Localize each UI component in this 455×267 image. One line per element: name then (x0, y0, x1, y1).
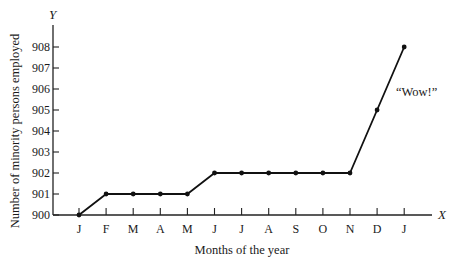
y-tick-label: 902 (32, 166, 50, 180)
y-tick-label: 900 (32, 208, 50, 222)
data-point (158, 192, 163, 197)
x-tick-label: S (292, 222, 299, 236)
data-point (104, 192, 109, 197)
x-tick-label: O (319, 222, 328, 236)
data-line (79, 47, 404, 215)
y-tick-label: 907 (32, 61, 50, 75)
x-tick-label: F (103, 222, 110, 236)
y-tick-label: 908 (32, 40, 50, 54)
x-tick-label: M (128, 222, 139, 236)
x-tick-label: J (239, 222, 244, 236)
data-point (212, 171, 217, 176)
y-axis: 900901902903904905906907908 (32, 25, 59, 222)
x-tick-label: D (373, 222, 382, 236)
data-point (321, 171, 326, 176)
data-point (239, 171, 244, 176)
data-point (293, 171, 298, 176)
line-chart: 900901902903904905906907908 JFMAMJJASOND… (0, 0, 455, 267)
y-tick-label: 901 (32, 187, 50, 201)
x-axis-name: X (437, 207, 447, 222)
data-series (77, 45, 407, 218)
x-axis: JFMAMJJASONDJ (53, 208, 432, 236)
data-point (375, 108, 380, 113)
data-point (77, 213, 82, 218)
y-tick-label: 906 (32, 82, 50, 96)
y-tick-label: 903 (32, 145, 50, 159)
x-tick-label: M (182, 222, 193, 236)
data-point (402, 45, 407, 50)
x-tick-label: J (212, 222, 217, 236)
data-point (348, 171, 353, 176)
x-tick-label: J (402, 222, 407, 236)
data-point (185, 192, 190, 197)
y-axis-name: Y (49, 7, 58, 22)
data-point (266, 171, 271, 176)
x-tick-label: J (77, 222, 82, 236)
x-tick-label: A (264, 222, 273, 236)
wow-annotation: “Wow!” (396, 85, 437, 99)
y-tick-label: 904 (32, 124, 50, 138)
data-point (131, 192, 136, 197)
x-tick-label: A (156, 222, 165, 236)
y-tick-label: 905 (32, 103, 50, 117)
y-axis-title: Number of minority persons employed (8, 33, 22, 228)
x-axis-title: Months of the year (195, 243, 291, 257)
x-tick-label: N (346, 222, 355, 236)
